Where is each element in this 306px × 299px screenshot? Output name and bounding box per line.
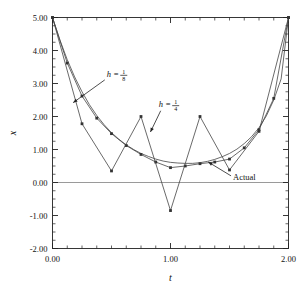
data-point-marker	[199, 115, 202, 118]
y-tick-label: 4.00	[33, 46, 48, 56]
h-label-denominator: 4	[174, 106, 177, 112]
data-point-marker	[110, 132, 113, 135]
h-label-equals: =	[114, 69, 119, 79]
data-point-marker	[213, 161, 216, 164]
data-point-marker	[140, 115, 143, 118]
series-line-h-1-8	[53, 18, 289, 168]
data-point-marker	[228, 158, 231, 161]
h-label-variable: h	[159, 99, 163, 109]
actual-label: Actual	[233, 172, 256, 182]
data-point-marker	[287, 16, 290, 19]
x-axis-title: t	[169, 272, 172, 283]
data-point-marker	[51, 16, 54, 19]
axis-labels-group: -2.00-1.000.001.002.003.004.005.000.001.…	[7, 13, 296, 283]
y-tick-label: 5.00	[33, 13, 48, 23]
data-point-marker	[272, 97, 275, 100]
y-axis-title: x	[7, 130, 18, 136]
y-tick-label: 3.00	[33, 79, 48, 89]
h-label-denominator: 8	[122, 76, 125, 82]
data-point-marker	[169, 209, 172, 212]
y-tick-label: -1.00	[30, 211, 48, 221]
h-label-equals: =	[166, 99, 171, 109]
x-tick-label: 2.00	[281, 254, 296, 264]
data-point-marker	[258, 130, 261, 133]
x-tick-label: 0.00	[45, 254, 60, 264]
data-point-marker	[81, 122, 84, 125]
x-tick-label: 1.00	[163, 254, 178, 264]
data-point-marker	[110, 170, 113, 173]
chart-figure: h=18h=14Actual -2.00-1.000.001.002.003.0…	[0, 0, 306, 299]
data-point-marker	[66, 62, 69, 65]
annotation-actual: Actual	[233, 172, 256, 182]
annotations-group: h=18h=14Actual	[73, 69, 256, 182]
line-chart: h=18h=14Actual -2.00-1.000.001.002.003.0…	[0, 0, 306, 299]
data-point-marker	[199, 162, 202, 165]
y-tick-label: 2.00	[33, 112, 48, 122]
series-line-actual	[53, 18, 289, 164]
data-point-marker	[95, 117, 98, 120]
data-point-marker	[228, 169, 231, 172]
annotation-h-one-fourth: h=14	[159, 99, 180, 112]
data-point-marker	[140, 153, 143, 156]
data-point-marker	[169, 166, 172, 169]
h-one-eighth-arrow-head	[73, 99, 77, 103]
annotation-h-one-eighth: h=18	[107, 69, 128, 82]
y-tick-label: -2.00	[30, 244, 48, 254]
h-label-variable: h	[107, 69, 111, 79]
h-label-numerator: 1	[174, 99, 177, 105]
y-tick-label: 1.00	[33, 145, 48, 155]
h-label-numerator: 1	[122, 69, 125, 75]
y-tick-label: 0.00	[33, 178, 48, 188]
